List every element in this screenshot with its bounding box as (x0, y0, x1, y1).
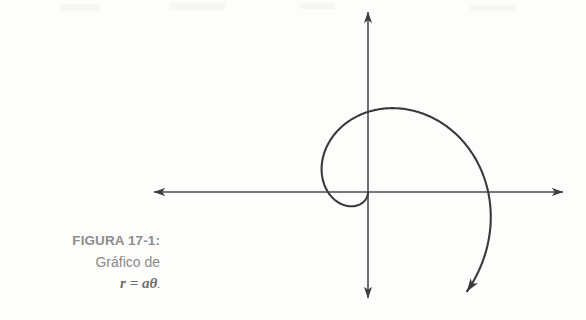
figure-caption: FIGURA 17-1: Gráfico de r = aθ. (0, 232, 160, 293)
archimedean-spiral-plot (140, 0, 586, 320)
figure-formula: r = aθ. (0, 274, 160, 294)
figure-number-label: FIGURA 17-1: (0, 232, 160, 250)
spiral-curve (322, 108, 491, 291)
scan-noise (60, 4, 100, 11)
axes-group (154, 12, 563, 298)
figure-page: FIGURA 17-1: Gráfico de r = aθ. (0, 0, 586, 320)
figure-description: Gráfico de (0, 253, 160, 271)
